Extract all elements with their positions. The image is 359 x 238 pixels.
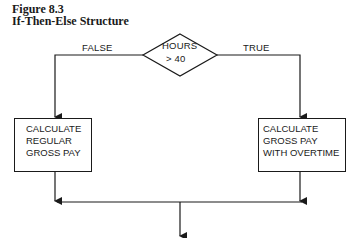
decision-text-line1: HOURS xyxy=(162,40,197,51)
false-branch-line xyxy=(55,55,143,117)
true-branch-line xyxy=(217,55,300,117)
box-line: CALCULATE xyxy=(26,123,86,135)
true-branch-label: TRUE xyxy=(243,42,270,53)
box-line: GROSS PAY xyxy=(26,147,86,159)
box-line: REGULAR xyxy=(26,135,86,147)
decision-text-line2: > 40 xyxy=(166,53,186,64)
calculate-regular-gross-pay-box: CALCULATE REGULAR GROSS PAY xyxy=(14,118,92,172)
false-branch-label: FALSE xyxy=(82,42,113,53)
box-line: GROSS PAY xyxy=(263,135,340,147)
box-line: CALCULATE xyxy=(263,123,340,135)
box-line: WITH OVERTIME xyxy=(263,147,340,159)
calculate-gross-pay-with-overtime-box: CALCULATE GROSS PAY WITH OVERTIME xyxy=(258,118,346,172)
